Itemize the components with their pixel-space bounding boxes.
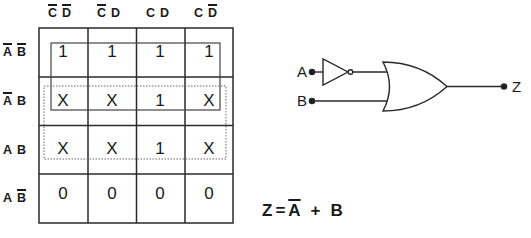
logic-circuit — [309, 59, 506, 111]
output-z-label: Z — [512, 78, 521, 95]
kmap-cell: 0 — [136, 170, 184, 218]
eq-lhs: Z — [262, 201, 272, 220]
boolean-equation: Z=A+B — [262, 201, 346, 221]
eq-op: + — [311, 201, 321, 220]
kmap-cell: 1 — [88, 28, 136, 76]
kmap-cell: X — [185, 125, 233, 173]
kmap-cell: X — [185, 77, 233, 125]
not-bubble-icon — [348, 70, 353, 75]
input-a-label: A — [297, 63, 307, 80]
kmap-cell: 1 — [185, 28, 233, 76]
kmap-cell: 1 — [136, 77, 184, 125]
kmap-cell: X — [39, 125, 87, 173]
or-gate-icon — [383, 62, 447, 111]
kmap-cell: X — [39, 77, 87, 125]
output-z-dot — [501, 84, 506, 89]
kmap-cell: 0 — [185, 170, 233, 218]
not-gate-icon — [323, 59, 348, 85]
eq-term1: A — [288, 201, 300, 220]
kmap-cell: X — [88, 125, 136, 173]
kmap-cell: 1 — [39, 28, 87, 76]
kmap-cell: X — [88, 77, 136, 125]
kmap-cell: 1 — [136, 125, 184, 173]
kmap-cell: 1 — [136, 28, 184, 76]
kmap-cell: 0 — [88, 170, 136, 218]
eq-equals: = — [275, 201, 285, 220]
kmap-cell: 0 — [39, 170, 87, 218]
input-b-label: B — [297, 92, 307, 109]
eq-term2: B — [331, 201, 343, 220]
